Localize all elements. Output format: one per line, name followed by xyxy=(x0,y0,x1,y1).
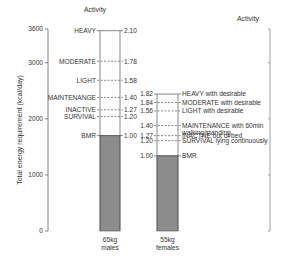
bars-group: HEAVY2.10MODERATE1.78LIGHT1.58MAINTENANG… xyxy=(48,27,269,251)
y-tick-label: 3000 xyxy=(28,59,43,66)
female-category-label: 55kg xyxy=(160,236,175,244)
female-level-factor: 1.00 xyxy=(140,152,153,159)
male-category-sublabel: males xyxy=(101,244,119,251)
female-level-factor: 1.82 xyxy=(140,90,153,97)
energy-requirement-chart: Total energy requirement (kcal/day) Acti… xyxy=(0,0,284,261)
female-level-label: HEAVY with desirable xyxy=(182,90,246,97)
bar-males: HEAVY2.10MODERATE1.78LIGHT1.58MAINTENANG… xyxy=(48,27,138,251)
left-activity-header: Activity xyxy=(84,6,107,14)
female-level-label: MODERATE with desirable xyxy=(182,99,261,106)
female-level-factor: 1.84 xyxy=(140,99,153,106)
male-level-factor: 1.00 xyxy=(124,132,137,139)
female-level-label: LIGHT with desirable xyxy=(182,107,244,114)
male-level-factor: 1.20 xyxy=(124,113,137,120)
male-level-label: BMR xyxy=(81,132,96,139)
female-level-factor: 1.20 xyxy=(140,137,153,144)
male-level-factor: 1.78 xyxy=(124,58,137,65)
female-level-label: SURVIVAL lying continuously xyxy=(182,137,268,145)
male-level-label: MODERATE xyxy=(59,58,96,65)
male-level-label: HEAVY xyxy=(74,27,96,34)
y-axis-ticks: 01000200030003600 xyxy=(28,25,48,234)
male-category-label: 65kg xyxy=(103,236,118,244)
male-level-label: LIGHT xyxy=(77,77,96,84)
bar-females: 1.82HEAVY with desirable1.84MODERATE wit… xyxy=(140,90,268,251)
male-level-factor: 1.58 xyxy=(124,77,137,84)
y-tick-label: 1000 xyxy=(28,171,43,178)
female-level-label: BMR xyxy=(182,152,197,159)
male-level-label: SURVIVAL xyxy=(64,113,96,120)
male-level-factor: 1.40 xyxy=(124,94,137,101)
female-level-factor: 1.40 xyxy=(140,122,153,129)
bmr-fill xyxy=(157,156,178,231)
female-level-factor: 1.56 xyxy=(140,107,153,114)
y-tick-label: 2000 xyxy=(28,115,43,122)
male-level-label: MAINTENANGE xyxy=(48,94,97,101)
right-activity-header: Activity xyxy=(237,15,260,23)
y-axis-label: Total energy requirement (kcal/day) xyxy=(16,75,24,185)
female-category-sublabel: females xyxy=(156,244,180,251)
bmr-fill xyxy=(100,136,120,231)
y-tick-label: 0 xyxy=(39,227,43,234)
y-tick-label: 3600 xyxy=(28,25,43,32)
male-level-factor: 2.10 xyxy=(124,27,137,34)
